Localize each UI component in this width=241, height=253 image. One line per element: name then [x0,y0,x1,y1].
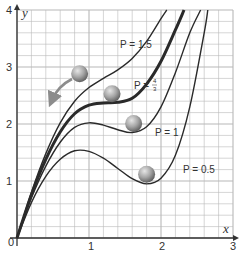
x-axis-label: x [222,221,229,236]
y-axis-label: y [20,5,28,20]
label-p-1-5: P = 1.5 [120,39,152,50]
svg-text:4: 4 [153,78,157,84]
tick-y-4: 4 [6,4,12,16]
tick-y-2: 2 [6,118,12,130]
label-p-0-5: P = 0.5 [183,164,215,175]
ball-icon [125,115,142,132]
tick-origin: 0 [8,236,14,248]
tick-x-2: 2 [159,240,165,252]
chart: 0 1 2 3 1 2 3 4 y x P = 1.5 P = 4 3 P = … [0,0,241,253]
tick-y-1: 1 [6,175,12,187]
ball-icon [104,85,121,102]
tick-y-3: 3 [6,61,12,73]
tick-x-1: 1 [88,240,94,252]
ball-icon [138,166,155,183]
svg-text:P =: P = [134,80,149,91]
svg-text:3: 3 [153,86,157,92]
y-axis-arrow-icon [14,4,20,10]
ball-icon [71,65,88,82]
label-p-4-3: P = 4 3 [134,78,157,92]
label-p-1: P = 1 [155,127,179,138]
tick-x-3: 3 [230,240,236,252]
